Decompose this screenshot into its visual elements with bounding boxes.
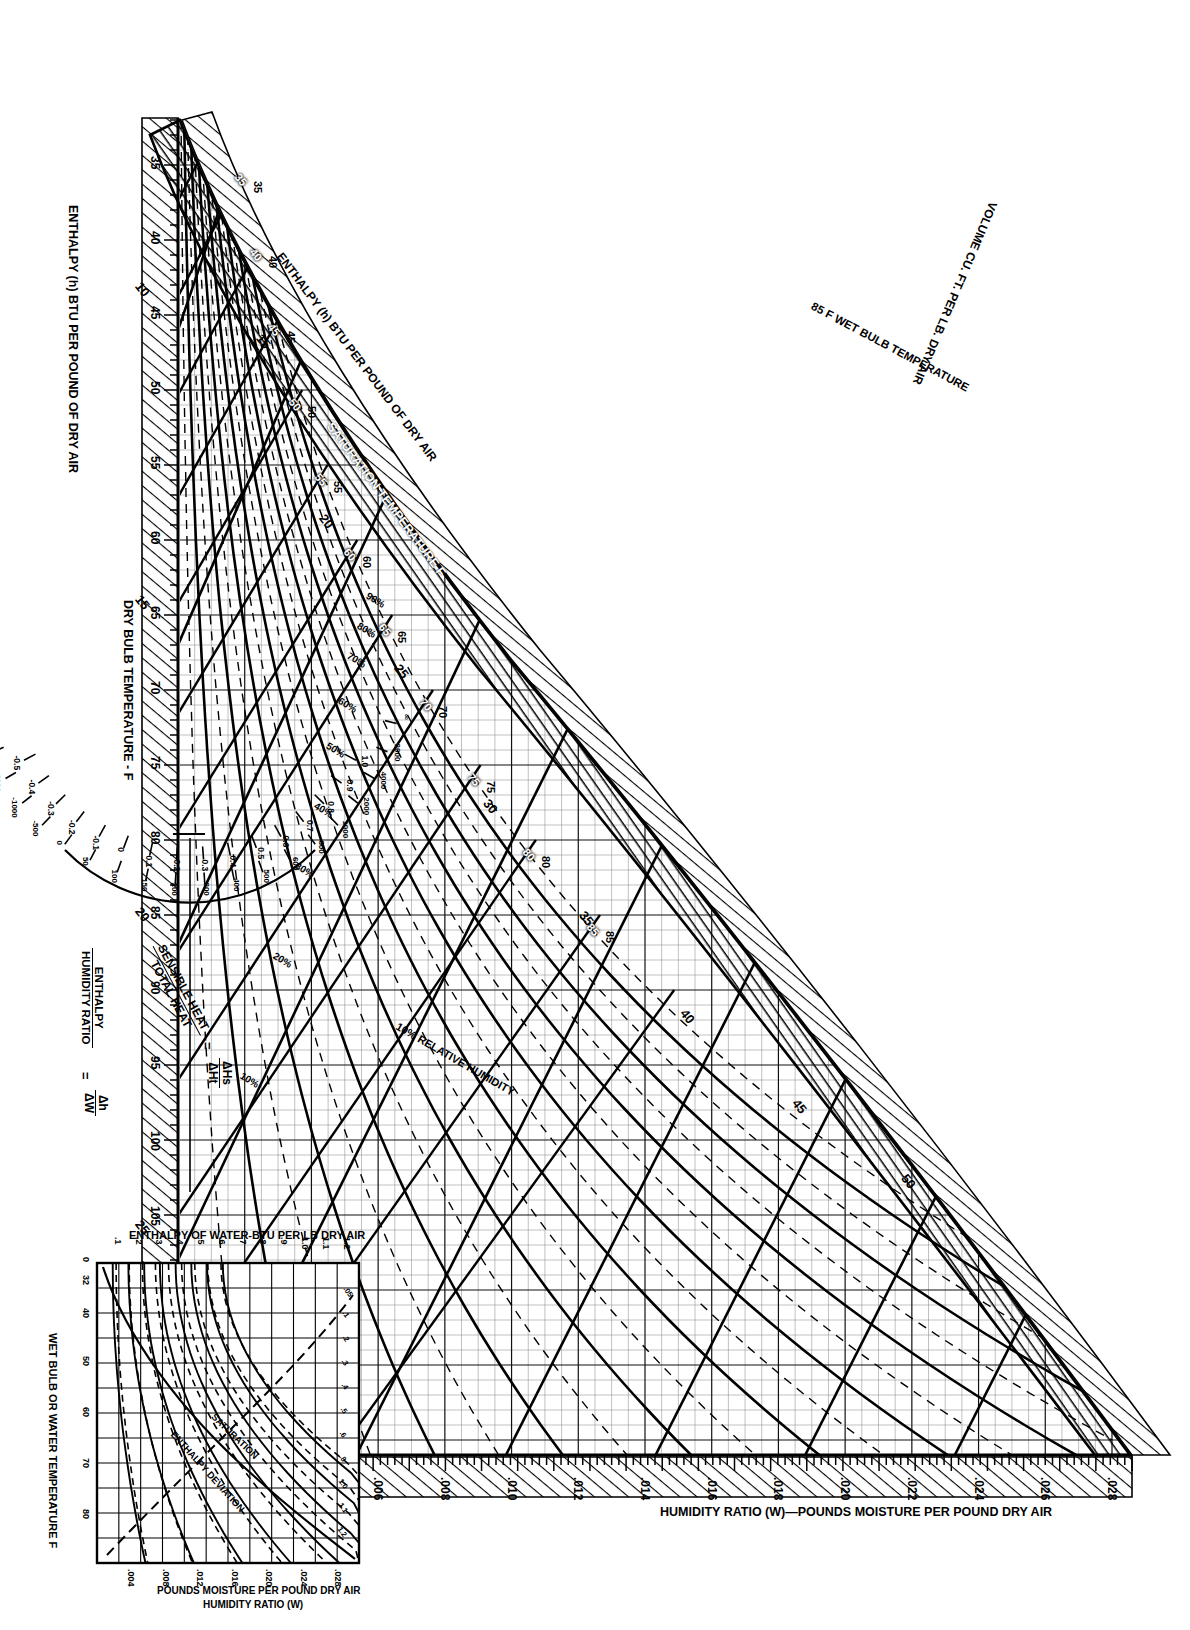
wet-bulb-label-65: 65 bbox=[396, 631, 408, 643]
protractor-outer-tick-12: 100 bbox=[110, 870, 119, 883]
inset-y-tick--1: .1 bbox=[113, 1237, 123, 1245]
chart-sheet-rotated: DRY BULB TEMPERATURE - F HUMIDITY RATIO … bbox=[0, 0, 1190, 1630]
dry-bulb-tick-45: 45 bbox=[148, 306, 162, 319]
humidity-ratio-text: HUMIDITY RATIO bbox=[80, 948, 92, 1048]
dry-bulb-tick-75: 75 bbox=[148, 756, 162, 769]
humidity-ratio-tick-.022: .022 bbox=[905, 1477, 919, 1500]
inset-y-tick--4: .4 bbox=[175, 1237, 185, 1245]
protractor-inner-tick-7: 0.3 bbox=[200, 859, 210, 871]
protractor-inner-tick-14: -0.4 bbox=[27, 780, 37, 795]
inset-humidity-tick--012: .012 bbox=[195, 1569, 205, 1587]
delta-h-text: Δh bbox=[95, 1090, 109, 1116]
dry-bulb-tick-70: 70 bbox=[148, 681, 162, 694]
inset-humidity-tick--024: .024 bbox=[299, 1569, 309, 1587]
humidity-ratio-tick-.026: .026 bbox=[1038, 1477, 1052, 1500]
wet-bulb-label-50: 50 bbox=[306, 406, 318, 418]
inset-y-tick-1-1: 1.1 bbox=[321, 1237, 331, 1250]
inset-x-tick-50: 50 bbox=[81, 1356, 91, 1366]
wet-bulb-label-60: 60 bbox=[361, 556, 373, 568]
protractor-enthalpy-label: ENTHALPY HUMIDITY RATIO bbox=[80, 948, 105, 1048]
protractor-outer-tick-8: 400 bbox=[232, 878, 241, 891]
protractor-inner-tick-9: 0.1 bbox=[144, 855, 154, 867]
inset-humidity-tick--016: .016 bbox=[230, 1569, 240, 1587]
humidity-ratio-tick-.024: .024 bbox=[972, 1477, 986, 1500]
inset-x-axis-title: WET BULB OR WATER TEMPERATURE F bbox=[47, 1333, 59, 1548]
protractor-inner-tick-8: 0.2 bbox=[172, 859, 182, 871]
protractor-inner-tick-13: -0.3 bbox=[46, 801, 56, 816]
dry-bulb-tick-40: 40 bbox=[148, 231, 162, 244]
humidity-ratio-tick-.028: .028 bbox=[1105, 1477, 1119, 1500]
inset-x-tick-80: 80 bbox=[81, 1509, 91, 1519]
protractor-outer-tick-6: 600 bbox=[291, 857, 300, 870]
wet-bulb-label-40: 40 bbox=[267, 256, 279, 268]
wet-bulb-label-70: 70 bbox=[437, 706, 449, 718]
inset-y-tick--9: .9 bbox=[279, 1237, 289, 1245]
enthalpy-of-water-inset-chart: ENTHALPY OF WATER-BTU PER LB DRY AIR WET… bbox=[23, 1215, 375, 1607]
psychrometric-chart-sheet: DRY BULB TEMPERATURE - F HUMIDITY RATIO … bbox=[0, 0, 1190, 1630]
protractor-outer-tick-17: -2000 bbox=[0, 772, 2, 792]
protractor-inner-tick-2: 0.8 bbox=[326, 801, 336, 813]
humidity-ratio-tick-.020: .020 bbox=[838, 1477, 852, 1500]
humidity-ratio-tick-.018: .018 bbox=[771, 1477, 785, 1500]
protractor-equals-2: = bbox=[78, 1072, 93, 1080]
protractor-inner-tick-1: 0.9 bbox=[345, 780, 355, 792]
protractor-outer-tick-15: -500 bbox=[31, 820, 40, 836]
wet-bulb-label-35: 35 bbox=[252, 181, 264, 193]
humidity-ratio-axis-title: HUMIDITY RATIO (W)—POUNDS MOISTURE PER P… bbox=[660, 1505, 1052, 1519]
protractor-outer-tick-16: -1000 bbox=[10, 797, 19, 817]
humidity-ratio-tick-.010: .010 bbox=[505, 1477, 519, 1500]
sensible-heat-ratio-protractor: SENSIBLE HEAT TOTAL HEAT = ΔHs ΔHt ENTHA… bbox=[25, 820, 355, 1210]
inset-x-tick-32: 32 bbox=[81, 1275, 91, 1285]
humidity-ratio-tick-.014: .014 bbox=[638, 1477, 652, 1500]
inset-humidity-tick--020: .020 bbox=[264, 1569, 274, 1587]
inset-humidity-ratio-title: HUMIDITY RATIO (W) bbox=[203, 1599, 303, 1610]
inset-x-tick-40: 40 bbox=[81, 1308, 91, 1318]
inset-x-tick-0: 0 bbox=[81, 1257, 91, 1262]
protractor-inner-tick-5: 0.5 bbox=[256, 847, 266, 859]
dry-bulb-axis-title: DRY BULB TEMPERATURE - F bbox=[121, 600, 135, 780]
delta-w-text: ΔW bbox=[83, 1090, 96, 1116]
protractor-outer-tick-1: 8000 bbox=[393, 744, 402, 762]
protractor-outer-tick-14: 0 bbox=[55, 840, 64, 844]
wet-bulb-label-85: 85 bbox=[604, 931, 616, 943]
inset-graphics bbox=[23, 1215, 375, 1607]
inset-y-tick--7: .7 bbox=[238, 1237, 248, 1245]
protractor-outer-tick-0: ∞ bbox=[402, 714, 411, 720]
protractor-outer-tick-2: 4000 bbox=[379, 772, 388, 790]
wet-bulb-label-75: 75 bbox=[485, 781, 497, 793]
protractor-outer-tick-3: 2000 bbox=[362, 797, 371, 815]
inset-humidity-ratio-subtitle: POUNDS MOISTURE PER POUND DRY AIR bbox=[157, 1585, 361, 1596]
protractor-inner-tick-10: 0 bbox=[116, 847, 126, 852]
dry-bulb-tick-35: 35 bbox=[148, 156, 162, 169]
dry-bulb-tick-50: 50 bbox=[148, 381, 162, 394]
dry-bulb-tick-55: 55 bbox=[148, 456, 162, 469]
inset-y-tick--5: .5 bbox=[196, 1237, 206, 1245]
delta-ht-text: ΔHt bbox=[207, 1058, 220, 1088]
dry-bulb-tick-60: 60 bbox=[148, 531, 162, 544]
wet-bulb-label-80: 80 bbox=[540, 856, 552, 868]
protractor-inner-tick-11: -0.1 bbox=[91, 835, 101, 850]
inset-y-tick--8: .8 bbox=[258, 1237, 268, 1245]
protractor-ratio-2: Δh ΔW bbox=[82, 1090, 109, 1116]
delta-hs-text: ΔHs bbox=[219, 1058, 233, 1088]
protractor-inner-tick-12: -0.2 bbox=[67, 820, 77, 835]
inset-y-tick--6: .6 bbox=[217, 1237, 227, 1245]
protractor-outer-tick-7: 500 bbox=[262, 870, 271, 883]
protractor-inner-tick-15: -0.5 bbox=[12, 756, 22, 771]
protractor-outer-tick-4: 1000 bbox=[341, 820, 350, 838]
inset-y-tick-1-0: 1.0 bbox=[300, 1237, 310, 1250]
protractor-inner-tick-0: 1.0 bbox=[360, 756, 370, 768]
protractor-inner-tick-3: 0.7 bbox=[305, 820, 315, 832]
inset-x-tick-60: 60 bbox=[81, 1407, 91, 1417]
inset-humidity-tick--004: .004 bbox=[126, 1569, 136, 1587]
protractor-outer-tick-11: 150 bbox=[140, 878, 149, 891]
wet-bulb-label-45: 45 bbox=[285, 331, 297, 343]
inset-humidity-tick--028: .028 bbox=[333, 1569, 343, 1587]
inset-x-tick-70: 70 bbox=[81, 1458, 91, 1468]
protractor-inner-tick-4: 0.6 bbox=[281, 835, 291, 847]
humidity-ratio-tick-.008: .008 bbox=[438, 1477, 452, 1500]
enthalpy-outer-axis-title: ENTHALPY (h) BTU PER POUND OF DRY AIR bbox=[66, 205, 80, 473]
protractor-outer-tick-9: 300 bbox=[202, 882, 211, 895]
protractor-inner-tick-6: 0.4 bbox=[228, 855, 238, 867]
humidity-ratio-tick-.012: .012 bbox=[571, 1477, 585, 1500]
